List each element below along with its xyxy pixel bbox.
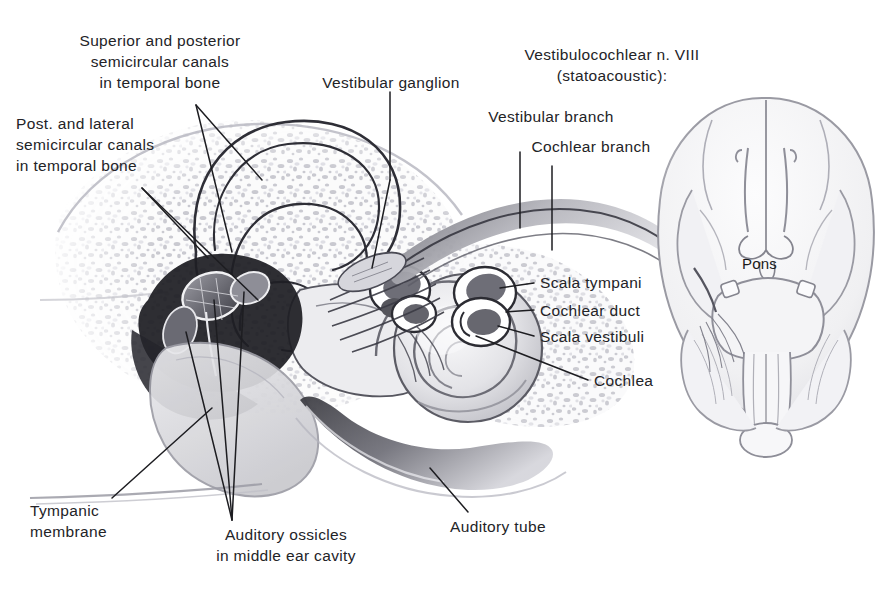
label-post-lateral-semicircular-canals: Post. and lateral semicircular canals in… [16, 113, 256, 176]
label-cochlear-branch: Cochlear branch [500, 136, 682, 157]
label-vestibular-branch: Vestibular branch [458, 106, 644, 127]
label-scala-vestibuli: Scala vestibuli [540, 326, 644, 347]
label-cochlea: Cochlea [594, 370, 653, 391]
label-pons: Pons [742, 253, 777, 274]
label-auditory-tube: Auditory tube [450, 516, 546, 537]
label-superior-posterior-semicircular-canals: Superior and posterior semicircular cana… [24, 30, 296, 93]
label-scala-tympani: Scala tympani [540, 272, 642, 293]
label-cochlear-duct: Cochlear duct [540, 300, 640, 321]
label-auditory-ossicles: Auditory ossicles in middle ear cavity [158, 524, 414, 566]
cross-section-lower-right [452, 298, 510, 346]
label-vestibulocochlear-nerve: Vestibulocochlear n. VIII (statoacoustic… [484, 44, 740, 86]
label-tympanic-membrane: Tympanic membrane [30, 500, 160, 542]
label-vestibular-ganglion: Vestibular ganglion [298, 72, 484, 93]
